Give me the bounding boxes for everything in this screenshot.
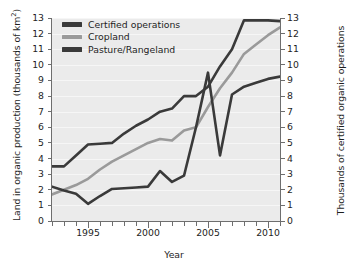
axis-tick-label: 4: [287, 153, 307, 164]
axis-tick: [48, 18, 52, 19]
axis-tick-label: 3: [287, 168, 307, 179]
axis-tick: [48, 127, 52, 128]
axis-tick-label: 2: [24, 184, 44, 195]
axis-tick-label: 0: [24, 215, 44, 226]
axis-tick: [64, 222, 65, 226]
axis-tick: [48, 111, 52, 112]
x-axis-title: Year: [0, 249, 348, 260]
axis-tick-label: 2005: [188, 227, 228, 238]
legend-item-label: Pasture/Rangeland: [88, 45, 175, 54]
axis-tick: [112, 222, 113, 226]
axis-tick-label: 5: [24, 137, 44, 148]
axis-tick: [48, 64, 52, 65]
axis-tick: [160, 222, 161, 226]
axis-tick: [48, 158, 52, 159]
legend-item[interactable]: Pasture/Rangeland: [62, 45, 180, 54]
axis-tick-label: 12: [287, 28, 307, 39]
y-axis-right-title: Thousands of certified organic operation…: [335, 21, 346, 221]
axis-tick: [281, 189, 285, 190]
axis-tick: [100, 222, 101, 226]
axis-tick: [256, 222, 257, 226]
axis-tick-label: 10: [24, 59, 44, 70]
axis-tick: [48, 80, 52, 81]
axis-tick: [48, 33, 52, 34]
axis-tick-label: 8: [287, 90, 307, 101]
axis-tick-label: 5: [287, 137, 307, 148]
axis-tick-label: 1: [24, 199, 44, 210]
axis-tick: [124, 222, 125, 226]
axis-tick: [52, 222, 53, 226]
axis-tick: [281, 221, 285, 222]
axis-tick-label: 13: [24, 12, 44, 23]
axis-tick: [244, 222, 245, 226]
legend-item-label: Cropland: [88, 32, 130, 41]
axis-tick: [281, 18, 285, 19]
legend-item[interactable]: Cropland: [62, 32, 180, 41]
axis-tick: [281, 127, 285, 128]
axis-tick: [172, 222, 173, 226]
legend-item-label: Certified operations: [88, 20, 180, 29]
axis-tick: [280, 222, 281, 226]
axis-tick: [76, 222, 77, 226]
axis-tick-label: 2010: [248, 227, 288, 238]
axis-tick: [281, 96, 285, 97]
y-axis-left-title-main: Land in organic production (thousands of…: [11, 17, 22, 221]
legend-swatch-icon: [62, 22, 82, 27]
axis-tick-label: 7: [24, 106, 44, 117]
axis-tick-label: 6: [287, 121, 307, 132]
y-axis-left-title-tail: ): [11, 9, 22, 13]
legend: Certified operationsCroplandPasture/Rang…: [62, 20, 180, 54]
axis-tick: [48, 205, 52, 206]
axis-tick: [281, 111, 285, 112]
axis-tick: [281, 174, 285, 175]
axis-tick-label: 8: [24, 90, 44, 101]
axis-tick: [48, 174, 52, 175]
axis-tick-label: 11: [287, 43, 307, 54]
axis-tick: [281, 64, 285, 65]
legend-swatch-icon: [62, 47, 82, 52]
y-axis-left-title: Land in organic production (thousands of…: [10, 21, 22, 221]
y-axis-left-title-superscript: 2: [10, 13, 18, 17]
axis-tick-label: 12: [24, 28, 44, 39]
axis-tick: [281, 205, 285, 206]
axis-tick-label: 13: [287, 12, 307, 23]
axis-tick-label: 11: [24, 43, 44, 54]
axis-tick: [281, 49, 285, 50]
axis-tick: [232, 222, 233, 226]
axis-tick-label: 9: [287, 74, 307, 85]
axis-tick: [184, 222, 185, 226]
axis-tick-label: 1995: [68, 227, 108, 238]
axis-tick-label: 2000: [128, 227, 168, 238]
axis-tick: [281, 33, 285, 34]
axis-tick-label: 10: [287, 59, 307, 70]
axis-tick-label: 9: [24, 74, 44, 85]
axis-tick: [136, 222, 137, 226]
x-axis-line: [51, 221, 281, 222]
organic-production-line-chart: Land in organic production (thousands of…: [0, 0, 348, 267]
axis-tick: [48, 142, 52, 143]
axis-tick: [281, 142, 285, 143]
axis-tick: [281, 80, 285, 81]
axis-tick-label: 4: [24, 153, 44, 164]
axis-tick: [220, 222, 221, 226]
axis-tick: [196, 222, 197, 226]
axis-tick-label: 7: [287, 106, 307, 117]
axis-tick: [281, 158, 285, 159]
axis-tick: [48, 189, 52, 190]
series-line: [52, 73, 280, 204]
axis-tick: [48, 49, 52, 50]
axis-tick: [48, 96, 52, 97]
legend-swatch-icon: [62, 35, 82, 40]
legend-item[interactable]: Certified operations: [62, 20, 180, 29]
axis-tick-label: 0: [287, 215, 307, 226]
axis-tick-label: 6: [24, 121, 44, 132]
axis-tick-label: 2: [287, 184, 307, 195]
axis-tick-label: 1: [287, 199, 307, 210]
axis-tick-label: 3: [24, 168, 44, 179]
